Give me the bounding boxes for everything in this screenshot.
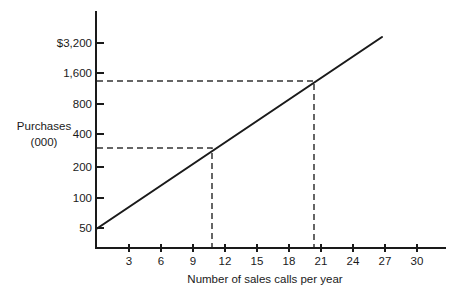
x-tick-label-9: 9 — [190, 255, 196, 267]
x-tick-label-15: 15 — [251, 255, 264, 267]
purchases-trend-line — [97, 37, 382, 229]
x-tick-label-18: 18 — [283, 255, 296, 267]
purchases-vs-sales-calls-chart: $3,200 1,600 800 400 200 100 50 Purchase… — [0, 0, 464, 294]
y-tick-label-1600: 1,600 — [63, 67, 92, 79]
x-tick-label-6: 6 — [158, 255, 164, 267]
x-tick-label-12: 12 — [219, 255, 232, 267]
y-tick-label-100: 100 — [73, 192, 92, 204]
y-tick-label-400: 400 — [73, 128, 92, 140]
upper-guide-dashed-line — [97, 81, 314, 247]
y-tick-label-800: 800 — [73, 98, 92, 110]
chart-container: $3,200 1,600 800 400 200 100 50 Purchase… — [0, 0, 464, 294]
x-tick-label-30: 30 — [411, 255, 424, 267]
y-tick-label-3200: $3,200 — [57, 37, 92, 49]
x-tick-label-3: 3 — [126, 255, 132, 267]
x-tick-label-21: 21 — [315, 255, 328, 267]
y-tick-label-200: 200 — [73, 161, 92, 173]
x-tick-label-24: 24 — [347, 255, 360, 267]
y-axis-title-units: (000) — [31, 136, 58, 148]
x-axis-title: Number of sales calls per year — [187, 273, 342, 285]
x-tick-label-27: 27 — [379, 255, 392, 267]
y-axis-title: Purchases — [17, 120, 72, 132]
y-tick-label-50: 50 — [79, 222, 92, 234]
